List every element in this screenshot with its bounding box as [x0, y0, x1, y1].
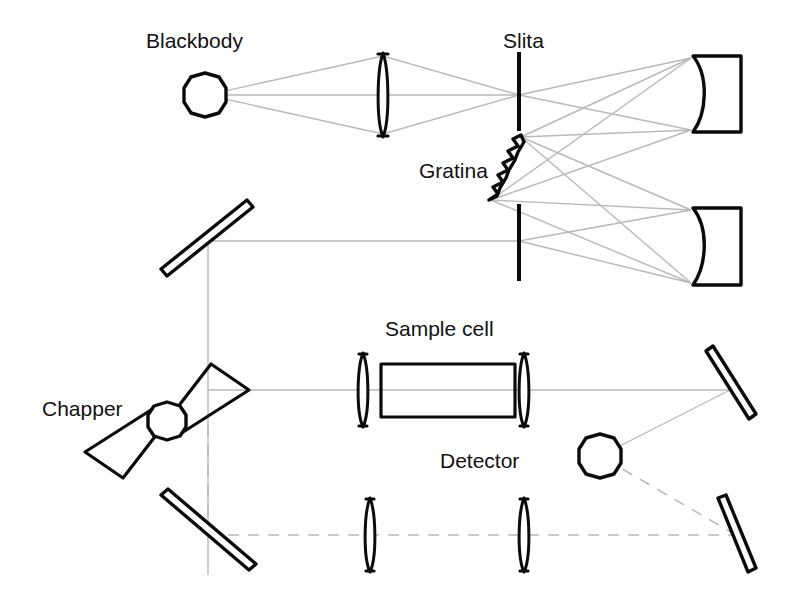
detector-element — [579, 434, 621, 478]
label-detector: Detector — [440, 449, 519, 472]
fold-mirror-upper-left — [161, 200, 253, 276]
optical-diagram: Blackbody Slita Gratina Chapper Sample c… — [0, 0, 789, 607]
reference-lens-left-body — [365, 498, 375, 572]
sample-cell-input-lens — [358, 353, 368, 427]
optics-canvas: Blackbody Slita Gratina Chapper Sample c… — [0, 0, 789, 607]
detector-circle — [579, 434, 621, 478]
label-blackbody: Blackbody — [146, 29, 243, 52]
label-grating: Gratina — [419, 159, 488, 182]
sample-output-lens-body — [519, 353, 529, 427]
sample-input-lens-body — [358, 353, 368, 427]
ray-grating-to-lower-mirror-a — [521, 137, 691, 210]
reference-lens-left — [365, 498, 375, 572]
blackbody-source — [184, 73, 226, 117]
fold-mirror-right-upper — [706, 346, 756, 419]
ray-source-lower — [207, 95, 519, 134]
source-lens — [378, 53, 388, 137]
label-slit: Slita — [503, 29, 544, 52]
lower-focusing-mirror — [693, 208, 741, 285]
blackbody-circle — [184, 73, 226, 117]
source-lens-body — [378, 53, 388, 137]
ray-mirror-to-grating-b — [521, 130, 691, 137]
fold-mirror-right-lower-body — [718, 495, 756, 572]
upper-mirror-body — [693, 56, 741, 132]
reference-lens-right — [519, 498, 529, 572]
fold-mirror-upper-left-body — [161, 200, 253, 276]
fold-mirror-right-upper-body — [706, 346, 756, 419]
ray-grating-to-lower-mirror-b — [521, 137, 691, 283]
ray-group-sample-beam — [208, 390, 730, 456]
ray-lower-mirror-to-exit-a — [519, 210, 691, 241]
reference-lens-right-body — [519, 498, 529, 572]
label-chopper: Chapper — [42, 397, 123, 420]
label-sample-cell: Sample cell — [385, 317, 494, 340]
ray-group-source-to-slit — [207, 56, 519, 134]
ray-source-upper — [207, 56, 519, 95]
sample-cell-output-lens — [519, 353, 529, 427]
chopper-hub — [148, 402, 186, 440]
fold-mirror-right-lower — [718, 495, 756, 572]
ray-reference-mirror-to-detector — [600, 456, 736, 535]
ray-group-reference-beam — [208, 425, 736, 535]
lower-mirror-body — [693, 208, 741, 285]
upper-collimating-mirror — [693, 56, 741, 132]
chopper-wheel — [85, 364, 249, 478]
ray-slit-to-mirror-lower — [519, 95, 691, 130]
